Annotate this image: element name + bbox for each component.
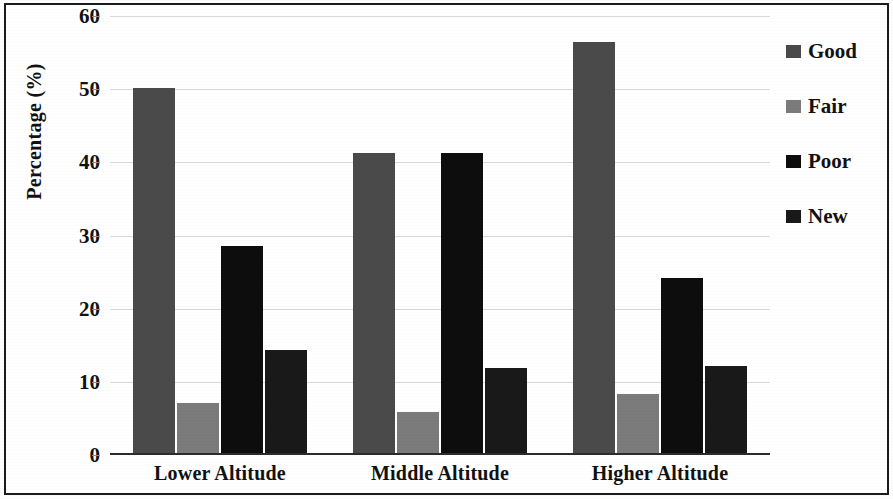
figure-canvas: Percentage (%) 0102030405060 Lower Altit… xyxy=(0,0,893,499)
bar-poor-higher[interactable] xyxy=(661,278,703,455)
bar-group xyxy=(330,16,550,455)
x-axis-tick-labels: Lower AltitudeMiddle AltitudeHigher Alti… xyxy=(110,462,770,492)
bar-poor-lower[interactable] xyxy=(221,246,263,455)
legend-item-label: Fair xyxy=(808,96,846,117)
bar-fair-lower[interactable] xyxy=(177,403,219,455)
bar-poor-middle[interactable] xyxy=(441,153,483,455)
y-axis-tick-mark xyxy=(92,382,100,383)
legend-item-new[interactable]: New xyxy=(786,189,886,244)
y-axis-tick-mark xyxy=(92,455,100,456)
bar-fair-higher[interactable] xyxy=(617,394,659,455)
y-axis-tick-mark xyxy=(92,89,100,90)
legend-swatch-icon xyxy=(786,45,801,58)
x-axis-tick-label: Lower Altitude xyxy=(110,462,330,485)
y-axis-tick-mark xyxy=(92,16,100,17)
bar-good-higher[interactable] xyxy=(573,42,615,455)
legend-item-label: Good xyxy=(808,41,857,62)
y-axis-tick-mark xyxy=(92,236,100,237)
y-axis-tick-mark xyxy=(92,162,100,163)
bar-good-middle[interactable] xyxy=(353,153,395,455)
bar-group xyxy=(550,16,770,455)
legend-swatch-icon xyxy=(786,155,801,168)
y-axis-tick-labels: 0102030405060 xyxy=(44,16,100,455)
chart-legend: GoodFairPoorNew xyxy=(786,24,886,244)
bar-good-lower[interactable] xyxy=(133,88,175,455)
x-axis-tick-label: Middle Altitude xyxy=(330,462,550,485)
plot-area xyxy=(110,16,770,455)
legend-swatch-icon xyxy=(786,100,801,113)
y-axis-title: Percentage (%) xyxy=(23,22,46,242)
bar-fair-middle[interactable] xyxy=(397,412,439,455)
bar-group xyxy=(110,16,330,455)
bar-new-middle[interactable] xyxy=(485,368,527,455)
x-axis-tick-label: Higher Altitude xyxy=(550,462,770,485)
legend-item-label: Poor xyxy=(808,151,851,172)
bar-new-higher[interactable] xyxy=(705,366,747,455)
legend-swatch-icon xyxy=(786,210,801,223)
legend-item-poor[interactable]: Poor xyxy=(786,134,886,189)
legend-item-good[interactable]: Good xyxy=(786,24,886,79)
bar-new-lower[interactable] xyxy=(265,350,307,455)
legend-item-label: New xyxy=(808,206,848,227)
legend-item-fair[interactable]: Fair xyxy=(786,79,886,134)
y-axis-tick-mark xyxy=(92,309,100,310)
x-axis-line xyxy=(110,453,770,455)
